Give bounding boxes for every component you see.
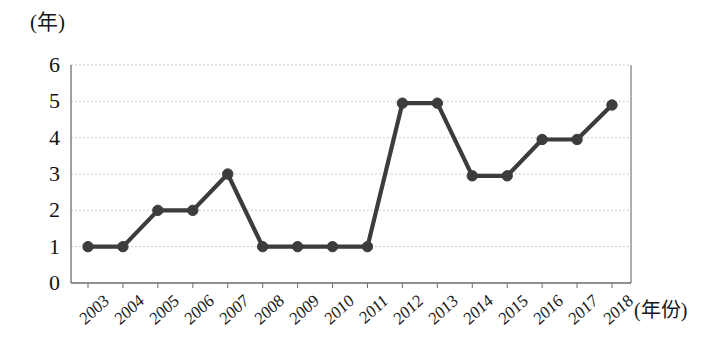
chart-figure: (年) 012345620032004200520062007200820092…: [0, 0, 720, 354]
y-axis-unit-label: (年): [30, 12, 65, 33]
x-tick-label: 2005: [146, 292, 183, 327]
data-point-marker: [83, 241, 93, 251]
data-point-marker: [397, 98, 407, 108]
x-tick-label: 2006: [181, 292, 218, 327]
y-tick-label: 3: [49, 163, 60, 185]
data-point-marker: [362, 241, 372, 251]
data-point-marker: [257, 241, 267, 251]
x-tick-label: 2011: [356, 292, 392, 327]
data-point-marker: [432, 98, 442, 108]
x-tick-label: 2013: [425, 292, 462, 327]
data-point-marker: [188, 205, 198, 215]
x-tick-label: 2010: [320, 292, 357, 327]
x-tick-label: 2018: [600, 292, 637, 327]
x-tick-label: 2007: [215, 292, 252, 327]
chart-canvas: [71, 65, 631, 283]
x-tick-label: 2012: [390, 292, 427, 327]
x-tick-label: 2014: [460, 292, 497, 327]
data-point-marker: [327, 241, 337, 251]
x-tick-label: 2017: [565, 292, 602, 327]
y-tick-label: 4: [49, 127, 60, 149]
y-tick-label: 6: [49, 54, 60, 76]
x-axis-unit-label: (年份): [634, 300, 687, 320]
data-point-marker: [118, 241, 128, 251]
y-tick-label: 5: [49, 90, 60, 112]
y-tick-label: 2: [49, 199, 60, 221]
y-tick-label: 1: [49, 236, 60, 258]
data-point-marker: [223, 169, 233, 179]
x-tick-label: 2009: [285, 292, 322, 327]
data-line: [88, 103, 612, 247]
data-point-marker: [153, 205, 163, 215]
x-tick-label: 2003: [76, 292, 113, 327]
data-point-marker: [607, 100, 617, 110]
x-tick-label: 2004: [111, 292, 148, 327]
x-tick-label: 2015: [495, 292, 532, 327]
plot-area: 0123456200320042005200620072008200920102…: [71, 65, 631, 283]
x-tick-label: 2008: [250, 292, 287, 327]
data-point-marker: [572, 134, 582, 144]
data-point-marker: [502, 171, 512, 181]
data-point-marker: [537, 134, 547, 144]
x-tick-label: 2016: [530, 292, 567, 327]
data-point-marker: [292, 241, 302, 251]
y-tick-label: 0: [49, 272, 60, 294]
data-point-marker: [467, 171, 477, 181]
